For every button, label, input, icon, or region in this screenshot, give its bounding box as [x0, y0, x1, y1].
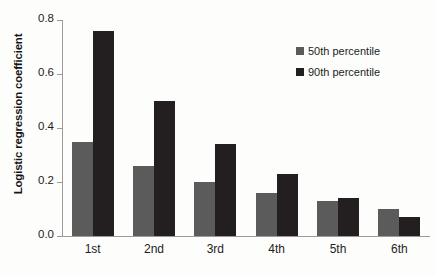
- legend-item-50th: 50th percentile: [296, 45, 380, 57]
- bar-5th-50th: [317, 201, 338, 236]
- bar-4th-90th: [277, 174, 298, 236]
- y-tick-label: 0.2: [10, 174, 54, 186]
- black-square-icon: [296, 68, 304, 76]
- bar-2nd-90th: [154, 101, 175, 236]
- y-axis-title: Logistic regression coefficient: [12, 4, 24, 224]
- bar-4th-50th: [256, 193, 277, 236]
- bar-3rd-50th: [194, 182, 215, 236]
- y-tick-label: 0.8: [10, 12, 54, 24]
- bar-6th-50th: [378, 209, 399, 236]
- y-tick-mark: [57, 236, 62, 237]
- y-tick-mark: [57, 182, 62, 183]
- legend-item-90th: 90th percentile: [296, 66, 380, 78]
- x-axis-label-1st: 1st: [63, 242, 123, 256]
- y-axis-line: [62, 20, 63, 237]
- y-tick-label: 0.4: [10, 120, 54, 132]
- bar-1st-90th: [93, 31, 114, 236]
- x-axis-line: [62, 236, 430, 237]
- bar-2nd-50th: [133, 166, 154, 236]
- legend-label: 90th percentile: [308, 66, 380, 78]
- y-tick-label: 0.0: [10, 228, 54, 240]
- y-tick-mark: [57, 74, 62, 75]
- x-axis-label-3rd: 3rd: [185, 242, 245, 256]
- x-axis-label-2nd: 2nd: [124, 242, 184, 256]
- bar-3rd-90th: [215, 144, 236, 236]
- x-axis-label-4th: 4th: [247, 242, 307, 256]
- y-tick-mark: [57, 128, 62, 129]
- y-tick-label: 0.6: [10, 66, 54, 78]
- legend-label: 50th percentile: [308, 45, 380, 57]
- bar-1st-50th: [72, 142, 93, 237]
- bar-5th-90th: [338, 198, 359, 236]
- legend: 50th percentile90th percentile: [296, 45, 380, 87]
- x-axis-label-5th: 5th: [308, 242, 368, 256]
- gray-square-icon: [296, 47, 304, 55]
- y-tick-mark: [57, 20, 62, 21]
- bar-chart: Logistic regression coefficient 0.00.20.…: [0, 0, 436, 276]
- x-axis-label-6th: 6th: [369, 242, 429, 256]
- bar-6th-90th: [399, 217, 420, 236]
